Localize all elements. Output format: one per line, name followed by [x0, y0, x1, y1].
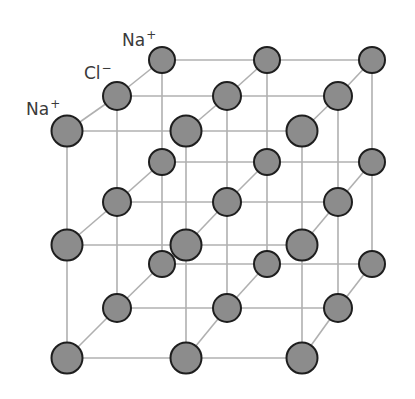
ion-atom — [287, 230, 318, 261]
ion-atom — [287, 116, 318, 147]
label-charge: + — [50, 97, 60, 111]
nacl-lattice-diagram — [0, 0, 415, 399]
ion-atom — [324, 82, 352, 110]
ion-atom — [149, 47, 175, 73]
ion-atom — [149, 149, 175, 175]
ion-atom — [52, 116, 83, 147]
ion-atom — [103, 82, 131, 110]
ion-atom — [254, 149, 280, 175]
ion-atom — [359, 251, 385, 277]
ion-atom — [254, 251, 280, 277]
ion-atom — [103, 188, 131, 216]
ion-atom — [324, 294, 352, 322]
ion-atom — [287, 343, 318, 374]
ion-atom — [171, 343, 202, 374]
label-cl: Cl− — [84, 65, 112, 82]
ion-atom — [171, 230, 202, 261]
label-charge: + — [146, 28, 156, 42]
label-na-top: Na+ — [122, 32, 156, 49]
label-element: Cl — [84, 63, 101, 83]
ion-atom — [324, 188, 352, 216]
ion-atom — [254, 47, 280, 73]
ion-atom — [213, 294, 241, 322]
label-element: Na — [122, 30, 145, 50]
ion-atom — [52, 343, 83, 374]
ion-atom — [213, 82, 241, 110]
ion-atom — [52, 230, 83, 261]
ion-atom — [213, 188, 241, 216]
ion-atom — [171, 116, 202, 147]
ion-atom — [103, 294, 131, 322]
label-element: Na — [26, 99, 49, 119]
ion-atom — [359, 47, 385, 73]
ion-atom — [149, 251, 175, 277]
label-charge: − — [102, 61, 112, 75]
ion-atom — [359, 149, 385, 175]
label-na-left: Na+ — [26, 101, 60, 118]
